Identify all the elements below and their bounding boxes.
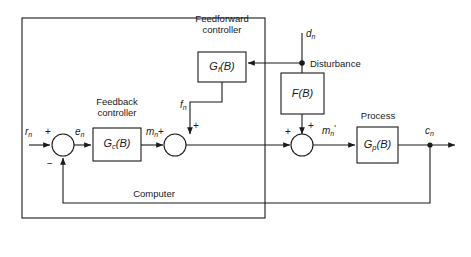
process-label: Gp(B) (357, 138, 398, 151)
junction-control-circle (164, 134, 186, 156)
feedforward-controller-label: Gf(B) (198, 60, 246, 73)
output-signal-label: cn (425, 125, 434, 137)
junction-error-circle (52, 134, 74, 156)
disturbance-caption: Disturbance (310, 59, 361, 70)
feedforward-output-signal-label: fn (180, 99, 187, 111)
disturbance-filter-label: F(B) (281, 87, 324, 100)
controller-output-signal-label: mn (146, 126, 158, 138)
process-caption: Process (348, 111, 408, 122)
block-diagram-figure: Feedforward controller Feedback controll… (0, 0, 471, 257)
junction-process-input-sign-left: + (285, 126, 291, 137)
diagram-canvas (0, 0, 471, 257)
feedforward-caption: Feedforward controller (172, 14, 272, 36)
junction-process-input-circle (291, 134, 313, 156)
feedback-caption: Feedback controller (67, 97, 167, 119)
error-signal-label: en (75, 126, 84, 138)
junction-control-sign-top: + (193, 120, 199, 131)
combined-input-signal-label: mn' (322, 125, 336, 137)
junction-process-input-sign-top: + (308, 120, 314, 131)
disturbance-signal-label: dn (306, 28, 315, 40)
feedback-controller-label: Gc(B) (93, 137, 141, 150)
reference-signal-label: rn (25, 126, 32, 138)
junction-control-sign-left: + (158, 126, 164, 137)
junction-error-sign-left: + (45, 126, 51, 137)
junction-error-sign-bottom: − (47, 158, 53, 169)
computer-label: Computer (104, 189, 204, 200)
